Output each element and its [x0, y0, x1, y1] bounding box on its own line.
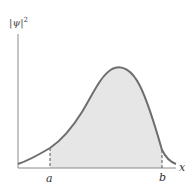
x-axis-label: x [179, 162, 185, 173]
probability-density-plot [0, 0, 192, 188]
marker-a-label: a [46, 173, 53, 184]
marker-b-label: b [159, 172, 166, 183]
y-axis-label: |ψ|2 [9, 17, 28, 28]
shaded-area-a-to-b [50, 67, 162, 168]
